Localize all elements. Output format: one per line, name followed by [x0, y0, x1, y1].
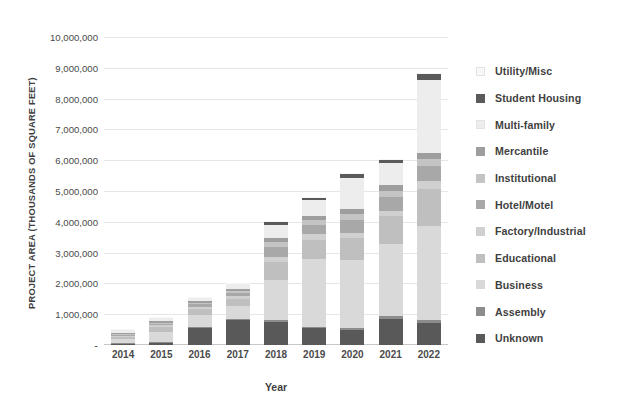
bar-segment-educational[interactable] [340, 238, 364, 260]
bar-segment-factory-industrial[interactable] [379, 211, 403, 217]
bar-segment-multi-family[interactable] [149, 318, 173, 321]
bar-segment-business[interactable] [379, 244, 403, 316]
bar-segment-student-housing[interactable] [379, 160, 403, 163]
bar-column-2022[interactable] [417, 37, 441, 345]
legend-item-mercantile[interactable]: Mercantile [476, 138, 621, 165]
bar-segment-utility-misc[interactable] [340, 173, 364, 174]
bar-segment-hotel-motel[interactable] [188, 304, 212, 307]
bar-segment-utility-misc[interactable] [149, 317, 173, 318]
bar-segment-utility-misc[interactable] [417, 73, 441, 74]
legend-item-unknown[interactable]: Unknown [476, 325, 621, 352]
bar-segment-assembly[interactable] [226, 319, 250, 320]
bar-segment-unknown[interactable] [149, 342, 173, 345]
bar-segment-multi-family[interactable] [379, 163, 403, 185]
bar-segment-educational[interactable] [417, 189, 441, 226]
bar-column-2021[interactable] [379, 37, 403, 345]
bar-segment-business[interactable] [188, 315, 212, 327]
bar-segment-unknown[interactable] [302, 328, 326, 345]
bar-segment-hotel-motel[interactable] [417, 166, 441, 181]
legend-item-institutional[interactable]: Institutional [476, 165, 621, 192]
bar-segment-assembly[interactable] [340, 328, 364, 330]
bar-column-2016[interactable] [188, 37, 212, 345]
bar-column-2019[interactable] [302, 37, 326, 345]
bar-segment-institutional[interactable] [149, 323, 173, 324]
bar-segment-mercantile[interactable] [417, 153, 441, 159]
bar-segment-unknown[interactable] [188, 328, 212, 345]
bar-column-2018[interactable] [264, 37, 288, 345]
legend-item-hotel-motel[interactable]: Hotel/Motel [476, 191, 621, 218]
bar-segment-educational[interactable] [302, 240, 326, 259]
bar-column-2017[interactable] [226, 37, 250, 345]
bar-segment-factory-industrial[interactable] [188, 307, 212, 309]
bar-segment-business[interactable] [302, 259, 326, 327]
legend-item-business[interactable]: Business [476, 272, 621, 299]
bar-segment-hotel-motel[interactable] [340, 220, 364, 233]
bar-segment-utility-misc[interactable] [264, 221, 288, 222]
bar-segment-hotel-motel[interactable] [379, 197, 403, 210]
bar-segment-unknown[interactable] [379, 319, 403, 345]
bar-segment-business[interactable] [417, 226, 441, 320]
bar-segment-hotel-motel[interactable] [111, 334, 135, 335]
bar-segment-utility-misc[interactable] [226, 283, 250, 284]
bar-segment-institutional[interactable] [264, 242, 288, 247]
bar-segment-multi-family[interactable] [302, 200, 326, 217]
bar-segment-institutional[interactable] [302, 220, 326, 224]
bar-segment-hotel-motel[interactable] [226, 293, 250, 296]
bar-segment-multi-family[interactable] [340, 178, 364, 209]
bar-segment-assembly[interactable] [111, 343, 135, 344]
bar-segment-institutional[interactable] [226, 291, 250, 293]
bar-segment-student-housing[interactable] [340, 174, 364, 178]
bar-segment-utility-misc[interactable] [302, 197, 326, 198]
bar-segment-educational[interactable] [379, 216, 403, 244]
bar-segment-factory-industrial[interactable] [149, 325, 173, 326]
bar-segment-factory-industrial[interactable] [302, 234, 326, 240]
bar-segment-mercantile[interactable] [340, 209, 364, 215]
bar-column-2014[interactable] [111, 37, 135, 345]
bar-segment-educational[interactable] [111, 337, 135, 340]
bar-segment-institutional[interactable] [340, 214, 364, 220]
bar-segment-assembly[interactable] [417, 320, 441, 323]
bar-segment-assembly[interactable] [379, 316, 403, 319]
bar-segment-factory-industrial[interactable] [417, 181, 441, 189]
legend-item-factory-industrial[interactable]: Factory/Industrial [476, 218, 621, 245]
bar-segment-institutional[interactable] [417, 159, 441, 166]
bar-segment-institutional[interactable] [379, 191, 403, 197]
bar-segment-unknown[interactable] [226, 320, 250, 345]
bar-segment-business[interactable] [111, 339, 135, 343]
bar-segment-student-housing[interactable] [226, 283, 250, 284]
bar-segment-mercantile[interactable] [264, 238, 288, 242]
bar-segment-business[interactable] [340, 260, 364, 328]
bar-segment-multi-family[interactable] [188, 298, 212, 301]
bar-segment-factory-industrial[interactable] [340, 233, 364, 239]
bar-segment-factory-industrial[interactable] [111, 336, 135, 337]
bar-segment-student-housing[interactable] [264, 222, 288, 225]
legend-item-student-housing[interactable]: Student Housing [476, 85, 621, 112]
bar-segment-student-housing[interactable] [417, 74, 441, 80]
bar-segment-educational[interactable] [264, 262, 288, 280]
bar-segment-business[interactable] [226, 306, 250, 319]
bar-segment-unknown[interactable] [111, 344, 135, 345]
bar-segment-utility-misc[interactable] [379, 159, 403, 160]
bar-segment-multi-family[interactable] [264, 225, 288, 238]
bar-segment-educational[interactable] [149, 327, 173, 333]
bar-segment-assembly[interactable] [302, 327, 326, 329]
bar-segment-hotel-motel[interactable] [149, 324, 173, 326]
bar-segment-multi-family[interactable] [417, 80, 441, 153]
bar-column-2015[interactable] [149, 37, 173, 345]
bar-segment-unknown[interactable] [417, 323, 441, 345]
bar-segment-multi-family[interactable] [226, 284, 250, 289]
bar-segment-business[interactable] [264, 280, 288, 320]
bar-segment-student-housing[interactable] [302, 198, 326, 200]
bar-segment-institutional[interactable] [111, 334, 135, 335]
legend-item-assembly[interactable]: Assembly [476, 298, 621, 325]
bar-segment-utility-misc[interactable] [188, 297, 212, 298]
bar-segment-assembly[interactable] [188, 327, 212, 328]
bar-segment-mercantile[interactable] [188, 301, 212, 303]
bar-segment-hotel-motel[interactable] [264, 247, 288, 257]
bar-segment-mercantile[interactable] [226, 289, 250, 291]
legend-item-multi-family[interactable]: Multi-family [476, 111, 621, 138]
bar-segment-institutional[interactable] [188, 303, 212, 304]
bar-segment-factory-industrial[interactable] [226, 296, 250, 298]
legend-item-utility-misc[interactable]: Utility/Misc [476, 58, 621, 85]
bar-segment-multi-family[interactable] [111, 330, 135, 333]
